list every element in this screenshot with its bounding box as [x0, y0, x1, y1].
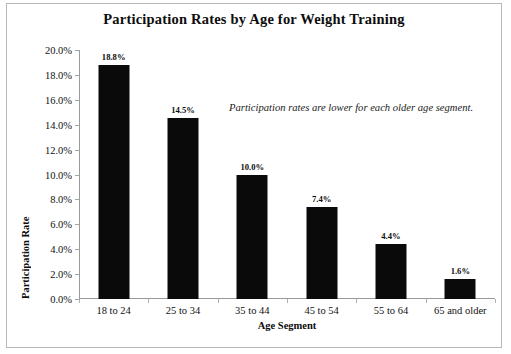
bar-group: 1.6%65 and older [426, 50, 495, 299]
y-tick-label: 14.0% [45, 119, 72, 130]
y-tick-label: 10.0% [45, 169, 72, 180]
bar[interactable] [98, 65, 129, 299]
x-tick [287, 299, 288, 303]
x-tick [495, 299, 496, 303]
y-tick-label: 20.0% [45, 45, 72, 56]
x-axis-title: Age Segment [79, 320, 495, 331]
y-tick-label: 4.0% [50, 244, 72, 255]
bar-value-label: 1.6% [451, 266, 470, 276]
bar-group: 4.4%55 to 64 [356, 50, 425, 299]
bar[interactable] [167, 118, 198, 299]
bar-value-label: 18.8% [102, 52, 126, 62]
x-tick [148, 299, 149, 303]
bar[interactable] [375, 244, 406, 299]
chart-title: Participation Rates by Age for Weight Tr… [7, 11, 501, 28]
x-category-label: 55 to 64 [374, 305, 408, 316]
x-category-label: 25 to 34 [166, 305, 200, 316]
y-tick-label: 18.0% [45, 69, 72, 80]
x-category-label: 35 to 44 [235, 305, 269, 316]
bar[interactable] [237, 175, 268, 300]
plot-area: 0.0%2.0%4.0%6.0%8.0%10.0%12.0%14.0%16.0%… [79, 50, 495, 299]
y-tick-label: 12.0% [45, 144, 72, 155]
x-category-label: 45 to 54 [304, 305, 338, 316]
chart-annotation: Participation rates are lower for each o… [229, 102, 473, 113]
bar-group: 18.8%18 to 24 [79, 50, 148, 299]
x-tick [356, 299, 357, 303]
bar-group: 14.5%25 to 34 [148, 50, 217, 299]
bar[interactable] [445, 279, 476, 299]
y-tick-label: 0.0% [50, 294, 72, 305]
y-tick-label: 8.0% [50, 194, 72, 205]
x-tick [426, 299, 427, 303]
bar-value-label: 7.4% [312, 194, 331, 204]
x-tick [79, 299, 80, 303]
bar-group: 10.0%35 to 44 [218, 50, 287, 299]
bar-value-label: 10.0% [240, 162, 264, 172]
y-tick-label: 2.0% [50, 269, 72, 280]
y-axis-title: Participation Rate [20, 50, 31, 299]
x-category-label: 18 to 24 [96, 305, 130, 316]
bar-value-label: 4.4% [381, 231, 400, 241]
x-category-label: 65 and older [434, 305, 487, 316]
bar-value-label: 14.5% [171, 105, 195, 115]
x-tick [218, 299, 219, 303]
chart-container: Participation Rates by Age for Weight Tr… [6, 3, 502, 348]
bar[interactable] [306, 207, 337, 299]
bar-group: 7.4%45 to 54 [287, 50, 356, 299]
y-tick-label: 6.0% [50, 219, 72, 230]
y-tick-label: 16.0% [45, 94, 72, 105]
